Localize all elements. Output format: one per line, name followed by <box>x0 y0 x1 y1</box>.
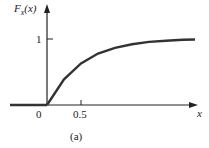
y-label-main: F <box>14 2 21 14</box>
x-tick-label-0.5: 0.5 <box>73 109 87 120</box>
y-axis-arrow-icon <box>44 4 50 13</box>
cdf-plot <box>0 0 209 148</box>
x-axis-label: x <box>197 108 202 119</box>
figure-caption: (a) <box>70 131 82 142</box>
x-tick-label-0: 0 <box>36 109 42 120</box>
y-label-arg: (x) <box>24 2 36 14</box>
cdf-curve <box>47 40 195 106</box>
y-axis-label: Fx(x) <box>14 3 37 17</box>
y-tick-label-1: 1 <box>36 34 42 45</box>
